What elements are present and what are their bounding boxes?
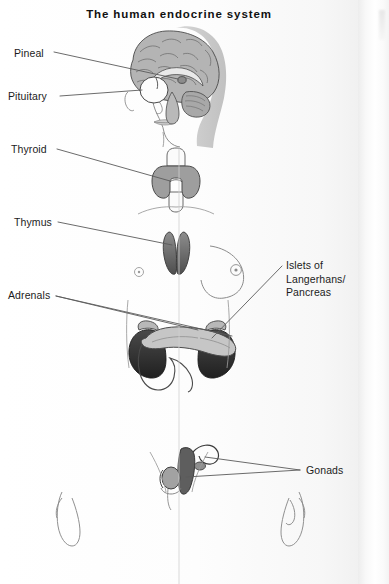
label-islets-line-2: Langerhans/ — [286, 273, 364, 287]
nipple-male-left-dot — [138, 271, 140, 273]
page-edge-speck — [379, 10, 385, 40]
book-gutter-far-page — [375, 0, 389, 584]
thyroid-leader — [57, 149, 170, 181]
nipple-female-right-dot — [234, 268, 237, 271]
label-pineal: Pineal — [14, 47, 44, 61]
label-thymus: Thymus — [14, 216, 52, 230]
penis-outline — [168, 489, 171, 510]
neck-line-left — [163, 132, 164, 147]
trachea-upper — [167, 148, 185, 166]
ovary — [195, 462, 206, 470]
label-islets-of-langerhans-pancreas: Islets of Langerhans/ Pancreas — [286, 259, 364, 300]
pituitary-leader — [60, 90, 142, 96]
pineal-gland — [178, 77, 186, 84]
label-gonads: Gonads — [306, 464, 343, 478]
hands — [56, 492, 305, 546]
trachea-lower — [169, 192, 183, 212]
pituitary-gland — [140, 77, 168, 103]
label-thyroid: Thyroid — [11, 143, 47, 157]
brain-sagittal-section — [131, 31, 220, 124]
waist-left — [127, 300, 129, 368]
label-adrenals: Adrenals — [8, 289, 50, 303]
label-islets-line-1: Islets of — [286, 259, 364, 273]
ear — [125, 92, 134, 111]
label-islets-line-3: Pancreas — [286, 286, 364, 300]
label-pituitary: Pituitary — [8, 90, 47, 104]
screenshot-root: The human endocrine system — [0, 0, 389, 584]
